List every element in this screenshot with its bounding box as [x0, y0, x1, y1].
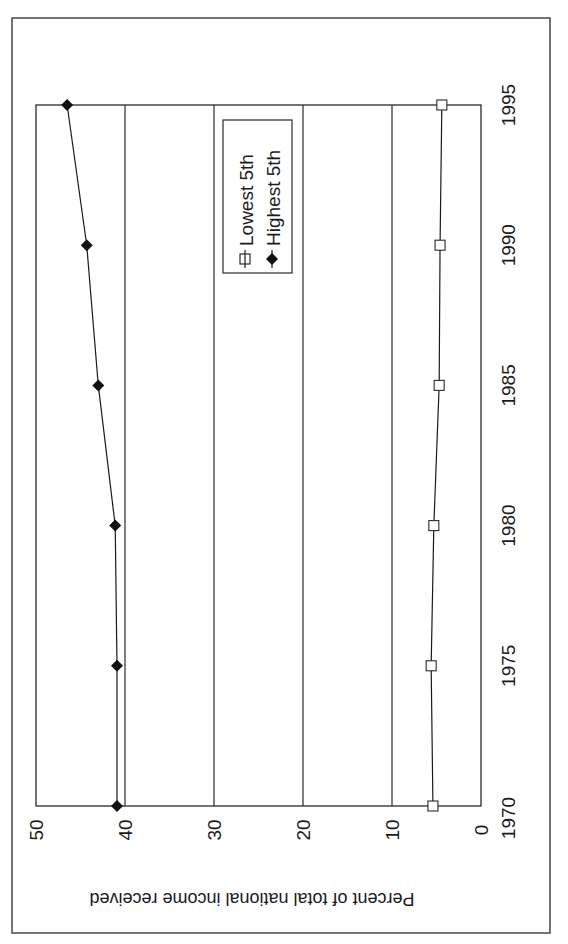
y-tick-label: 40 [115, 819, 136, 840]
open-square-marker-icon [437, 100, 447, 110]
x-tick-label: 1995 [498, 84, 519, 126]
y-axis-title: Percent of total national income receive… [89, 889, 414, 909]
x-tick-label: 1980 [498, 504, 519, 546]
legend-label: Lowest 5th [236, 154, 257, 246]
open-square-marker-icon [435, 240, 445, 250]
x-axis-tick-labels: 197019751980198519901995 [498, 84, 519, 839]
x-tick-label: 1985 [498, 364, 519, 406]
y-tick-label: 10 [382, 819, 403, 840]
open-square-marker-icon [429, 521, 439, 531]
open-square-marker-icon [434, 380, 444, 390]
y-tick-label: 30 [204, 819, 225, 840]
open-square-marker-icon [428, 801, 438, 811]
x-tick-label: 1970 [498, 797, 519, 839]
legend: Lowest 5th Highest 5th [223, 120, 292, 273]
y-tick-label: 0 [471, 825, 492, 836]
open-square-marker-icon [426, 661, 436, 671]
y-tick-label: 50 [26, 819, 47, 840]
x-tick-label: 1975 [498, 645, 519, 687]
legend-label: Highest 5th [263, 150, 284, 246]
x-tick-label: 1990 [498, 224, 519, 266]
y-tick-label: 20 [293, 819, 314, 840]
y-axis-tick-labels: 01020304050 [26, 819, 492, 840]
income-share-chart: 01020304050 197019751980198519901995 Per… [0, 0, 568, 944]
